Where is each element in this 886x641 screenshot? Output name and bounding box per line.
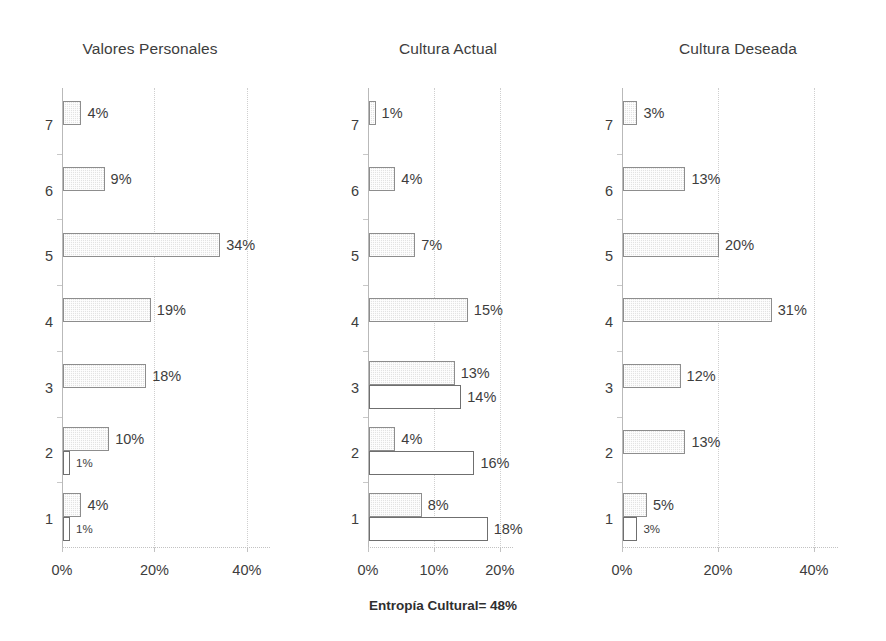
x-axis-label: 0% [358,562,379,578]
bar-value-label: 20% [725,237,754,253]
bar-filled: 4% [63,101,81,125]
x-axis-label: 0% [52,562,73,578]
x-axis-label: 40% [799,562,828,578]
bar-value-label: 18% [152,368,181,384]
y-axis-tick [57,351,62,352]
bar-filled: 12% [623,364,681,388]
bar-filled: 18% [63,364,146,388]
y-axis-tick [617,417,622,418]
chart-panel-3: Cultura Deseada0%20%40%73%613%520%431%31… [590,0,886,641]
y-axis-category-label: 5 [351,248,359,264]
bar-value-label: 12% [687,368,716,384]
bar-value-label: 4% [401,171,422,187]
bar-value-label: 3% [643,523,660,535]
bar-filled: 13% [623,430,685,454]
y-axis-category-label: 3 [351,380,359,396]
bar-filled: 1% [369,101,376,125]
x-axis-tick [814,548,815,552]
y-axis-category-label: 6 [605,183,613,199]
bar-hollow: 14% [369,385,461,409]
y-axis-tick [617,285,622,286]
chart-title: Cultura Actual [300,40,596,58]
bar-value-label: 14% [467,389,496,405]
y-axis-tick [57,285,62,286]
y-axis-category-label: 5 [45,248,53,264]
entropia-cultural-footnote: Entropía Cultural= 48% [0,598,886,613]
bar-filled: 3% [623,101,637,125]
y-axis-tick [57,154,62,155]
x-axis-label: 0% [612,562,633,578]
y-axis-category-label: 2 [45,445,53,461]
y-axis-category-label: 3 [605,380,613,396]
x-axis-label: 20% [703,562,732,578]
bar-value-label: 1% [76,523,93,535]
bar-filled: 20% [623,233,719,257]
x-axis-label: 20% [485,562,514,578]
bar-value-label: 3% [643,105,664,121]
bar-value-label: 9% [111,171,132,187]
gridline [154,88,155,548]
bar-value-label: 34% [226,237,255,253]
bar-filled: 7% [369,233,415,257]
bar-value-label: 15% [474,302,503,318]
chart-panel-1: Valores Personales0%20%40%74%69%534%419%… [0,0,300,641]
bar-value-label: 1% [382,105,403,121]
x-axis-tick [368,548,369,552]
y-axis-category-label: 1 [605,511,613,527]
bar-filled: 34% [63,233,220,257]
bar-filled: 19% [63,298,151,322]
y-axis-tick [617,351,622,352]
chart-title: Cultura Deseada [590,40,886,58]
x-axis-tick [154,548,155,552]
bar-value-label: 13% [691,171,720,187]
plot-area: 0%20%40%74%69%534%419%318%210%1%14%1% [62,88,270,548]
gridline [814,88,815,548]
x-axis-tick [434,548,435,552]
bar-filled: 4% [369,167,395,191]
x-axis-tick [247,548,248,552]
bar-value-label: 13% [691,434,720,450]
bar-value-label: 4% [401,431,422,447]
y-axis-category-label: 3 [45,380,53,396]
gridline [247,88,248,548]
y-axis-tick [363,154,368,155]
bar-value-label: 16% [480,455,509,471]
bar-value-label: 31% [778,302,807,318]
y-axis-category-label: 7 [351,117,359,133]
bar-value-label: 13% [461,365,490,381]
bar-filled: 4% [63,493,81,517]
bar-value-label: 8% [428,497,449,513]
y-axis-tick [363,417,368,418]
y-axis-tick [57,417,62,418]
chart-panel-2: Cultura Actual0%10%20%71%64%57%415%313%1… [300,0,596,641]
x-axis-label: 10% [419,562,448,578]
x-axis-label: 40% [232,562,261,578]
bar-value-label: 5% [653,497,674,513]
y-axis-tick [363,482,368,483]
y-axis-tick [617,482,622,483]
bar-filled: 13% [369,361,455,385]
y-axis-tick [617,154,622,155]
y-axis-category-label: 4 [605,314,613,330]
bar-value-label: 19% [157,302,186,318]
x-axis-line [622,547,838,548]
bar-filled: 4% [369,427,395,451]
y-axis-category-label: 6 [351,183,359,199]
x-axis-line [368,547,513,548]
bar-filled: 9% [63,167,105,191]
bar-hollow: 1% [63,451,70,475]
bar-value-label: 10% [115,431,144,447]
y-axis-category-label: 1 [45,511,53,527]
figure-canvas: Valores Personales0%20%40%74%69%534%419%… [0,0,886,641]
bar-filled: 31% [623,298,772,322]
bar-value-label: 18% [494,521,523,537]
y-axis-category-label: 6 [45,183,53,199]
bar-filled: 8% [369,493,422,517]
y-axis-category-label: 5 [605,248,613,264]
bar-filled: 15% [369,298,468,322]
y-axis-tick [363,285,368,286]
y-axis-tick [363,351,368,352]
y-axis-category-label: 7 [45,117,53,133]
y-axis-category-label: 4 [45,314,53,330]
x-axis-tick [500,548,501,552]
